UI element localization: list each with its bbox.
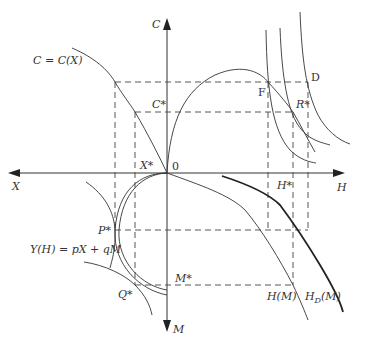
c-star-label: C* — [152, 98, 166, 111]
indifference-curve-1 — [266, 30, 316, 163]
consumption-curve-label: C = C(X) — [33, 54, 82, 67]
income-curve-label: Y(H) = pX + qM — [30, 243, 122, 256]
r-star-label: R* — [295, 98, 310, 111]
x-star-label: X* — [139, 159, 154, 172]
m-star-label: M* — [174, 272, 192, 285]
origin-label: 0 — [172, 160, 179, 173]
q-star-label: Q* — [118, 288, 133, 301]
x-axis-arrow-icon — [8, 169, 20, 177]
four-quadrant-diagram: C X H M 0 C = C(X) Y(H) = pX + qM H(M) H… — [0, 0, 373, 343]
d-label: D — [311, 71, 320, 84]
c-axis-label: C — [152, 18, 161, 31]
indifference-curve-2 — [280, 28, 330, 145]
h-of-m-label: H(M) — [266, 290, 296, 303]
f-label: F — [258, 86, 266, 99]
hd-suffix: (M) — [321, 290, 341, 303]
h-star-label: H* — [276, 179, 293, 192]
p-star-label: P* — [97, 224, 111, 237]
hd-main: H — [304, 290, 315, 303]
h-axis-label: H — [336, 181, 347, 194]
income-curve-outer — [115, 173, 167, 295]
h-axis-arrow-icon — [333, 169, 345, 177]
income-curve-inner — [119, 173, 167, 290]
c-axis-arrow-icon — [163, 18, 171, 30]
m-axis-label: M — [172, 323, 185, 336]
hd-of-m-label: HD(M) — [304, 290, 341, 305]
indifference-curve-3 — [300, 12, 350, 144]
x-axis-label: X — [11, 180, 21, 193]
m-axis-arrow-icon — [163, 320, 171, 332]
